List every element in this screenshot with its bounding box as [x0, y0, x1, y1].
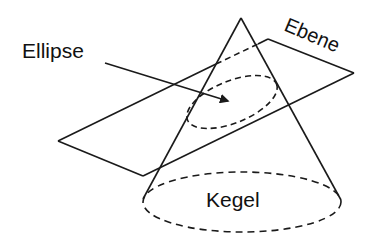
plane-shape — [58, 39, 354, 176]
cone-section-diagram: Ellipse Kegel Ebene — [0, 0, 368, 252]
ellipse-pointer-arrow — [105, 63, 228, 101]
plane-left-edge — [58, 141, 143, 176]
cone-left-side — [143, 18, 241, 199]
plane-bottom-edge — [143, 73, 354, 176]
plane-top-edge-right — [258, 39, 268, 44]
ellipse-label: Ellipse — [22, 39, 84, 62]
cone-label: Kegel — [206, 188, 260, 211]
plane-top-edge-left — [58, 64, 216, 141]
plane-label: Ebene — [281, 13, 343, 56]
